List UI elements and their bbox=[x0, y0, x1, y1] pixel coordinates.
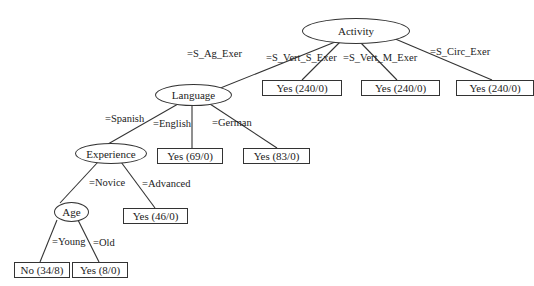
edge-label-spanish: =Spanish bbox=[105, 113, 144, 125]
leaf-vert-m: Yes (240/0) bbox=[361, 80, 440, 96]
edge-label-s-ag-exer: =S_Ag_Exer bbox=[187, 48, 242, 60]
leaf-old: Yes (8/0) bbox=[72, 262, 128, 278]
leaf-circ: Yes (240/0) bbox=[456, 80, 534, 96]
leaf-advanced: Yes (46/0) bbox=[123, 208, 188, 224]
edge-label-advanced: =Advanced bbox=[142, 178, 191, 190]
leaf-english: Yes (69/0) bbox=[157, 148, 223, 164]
node-activity: Activity bbox=[302, 18, 410, 44]
node-experience: Experience bbox=[75, 143, 147, 164]
leaf-young: No (34/8) bbox=[14, 262, 70, 278]
leaf-vert-s: Yes (240/0) bbox=[262, 80, 342, 96]
edge-label-s-circ-exer: =S_Circ_Exer bbox=[430, 46, 490, 58]
edge-label-english: =English bbox=[153, 118, 191, 130]
leaf-german: Yes (83/0) bbox=[243, 148, 310, 164]
edge-label-old: =Old bbox=[93, 237, 115, 249]
edge-label-s-vert-m-exer: =S_Vert_M_Exer bbox=[343, 52, 417, 64]
edge-label-s-vert-s-exer: =S_Vert_S_Exer bbox=[266, 52, 337, 64]
edge-label-german: =German bbox=[212, 117, 252, 129]
edge-label-young: =Young bbox=[52, 236, 85, 248]
node-language: Language bbox=[155, 84, 232, 106]
edge-label-novice: =Novice bbox=[89, 177, 125, 189]
node-age: Age bbox=[54, 202, 89, 222]
